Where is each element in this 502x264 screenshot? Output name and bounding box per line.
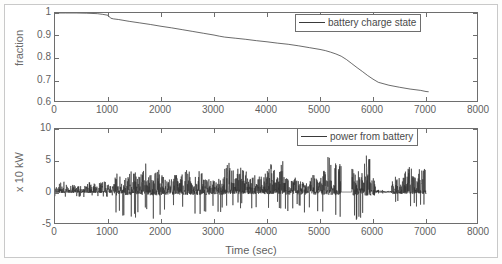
x-tick [426,13,427,17]
y-tick [55,129,59,130]
x-tick [108,13,109,17]
y-tick-label: 0.7 [37,75,51,85]
x-tick-label: 0 [29,105,79,115]
bottom-y-axis-title: x 10 kW [13,137,25,207]
x-tick [214,97,215,101]
legend-bottom[interactable]: power from battery [297,128,418,146]
y-tick [55,193,59,194]
x-tick [373,97,374,101]
x-tick-label: 6000 [347,105,397,115]
x-tick-label: 5000 [294,105,344,115]
x-tick-label: 5000 [294,227,344,237]
y-tick [473,81,477,82]
x-tick [267,129,268,133]
chart-panel-power-from-battery: x 10 kW -50510 0100020003000400050006000… [0,118,502,264]
x-tick-label: 3000 [188,227,238,237]
x-tick [108,219,109,223]
x-tick-label: 3000 [188,105,238,115]
y-tick-label: 10 [40,123,51,133]
x-tick-label: 2000 [135,227,185,237]
y-tick [473,193,477,194]
x-tick-label: 4000 [241,227,291,237]
x-tick-label: 7000 [400,227,450,237]
x-tick [214,13,215,17]
legend-top-label: battery charge state [328,17,416,28]
x-tick [161,219,162,223]
x-tick [320,97,321,101]
x-tick-label: 8000 [453,227,502,237]
x-tick [267,97,268,101]
x-tick [373,219,374,223]
x-tick [267,13,268,17]
x-tick-label: 1000 [82,227,132,237]
x-tick-label: 8000 [453,105,502,115]
x-tick [426,129,427,133]
x-tick-label: 0 [29,227,79,237]
y-tick [473,129,477,130]
y-tick-label: 0.8 [37,52,51,62]
x-tick-label: 7000 [400,105,450,115]
figure-page: fraction 0.60.70.80.91 01000200030004000… [0,0,502,264]
x-tick [320,219,321,223]
y-tick [473,35,477,36]
y-tick [473,161,477,162]
y-tick-label: 0 [45,187,51,197]
x-tick-label: 6000 [347,227,397,237]
y-tick-label: 5 [45,155,51,165]
x-tick [426,97,427,101]
x-tick [426,219,427,223]
top-y-axis-title: fraction [13,13,25,83]
y-tick [55,35,59,36]
chart-panel-battery-charge-state: fraction 0.60.70.80.91 01000200030004000… [0,0,502,120]
legend-line-swatch-icon [301,136,327,137]
x-tick [161,97,162,101]
x-tick [161,129,162,133]
legend-line-swatch-icon [299,22,325,23]
x-tick [108,129,109,133]
y-tick [473,58,477,59]
x-tick-label: 1000 [82,105,132,115]
y-tick [55,161,59,162]
x-tick [161,13,162,17]
y-tick [55,13,59,14]
legend-top[interactable]: battery charge state [295,14,421,32]
y-tick [55,58,59,59]
legend-bottom-label: power from battery [330,131,413,142]
y-tick [55,81,59,82]
x-tick [108,97,109,101]
x-tick [214,129,215,133]
x-axis-title: Time (sec) [0,244,502,256]
x-tick [267,219,268,223]
x-tick-label: 2000 [135,105,185,115]
x-tick [214,219,215,223]
y-tick-label: 1 [45,7,51,17]
y-tick-label: 0.9 [37,30,51,40]
x-tick-label: 4000 [241,105,291,115]
y-tick [473,13,477,14]
